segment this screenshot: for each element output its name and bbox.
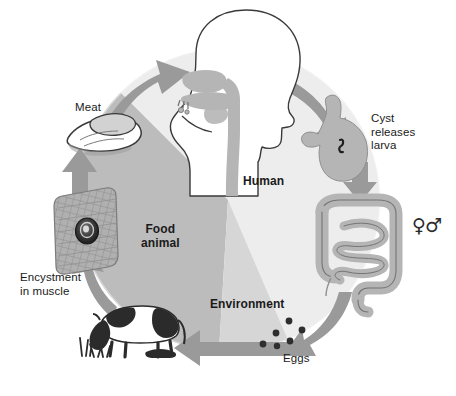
illustration-muscle-with-cyst (54, 188, 118, 274)
label-encystment-in-muscle: Encystment in muscle (20, 271, 81, 298)
label-meat: Meat (75, 101, 101, 115)
label-sector-human: Human (243, 174, 284, 188)
label-cyst-releases-larva: Cyst releases larva (371, 112, 415, 153)
label-eggs: Eggs (283, 352, 310, 366)
illustration-cut-of-meat (67, 114, 141, 156)
label-sector-environment: Environment (210, 297, 284, 311)
sex-symbols-icon: ♀♂ (412, 216, 441, 235)
life-cycle-diagram (0, 0, 456, 396)
diagram-canvas: Meat Cyst releases larva Encystment in m… (0, 0, 456, 396)
label-sector-food-animal: Food animal (141, 222, 180, 250)
illustration-grazing-cow (80, 306, 185, 358)
